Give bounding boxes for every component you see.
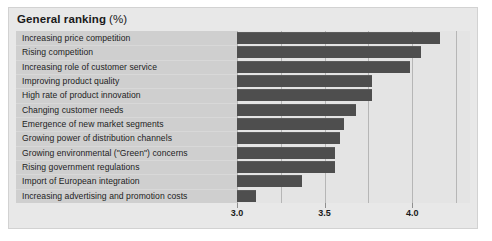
row-separator: [16, 45, 237, 46]
bar: [237, 132, 340, 144]
bar-row: [237, 88, 470, 102]
row-separator: [16, 117, 237, 118]
bar-row: [237, 117, 470, 131]
chart-title-unit: (%): [109, 13, 127, 25]
category-row: Increasing role of customer service: [16, 60, 237, 74]
x-axis: 3.03.54.0: [237, 203, 477, 225]
category-label: Increasing role of customer service: [22, 62, 157, 72]
row-separator: [16, 174, 237, 175]
chart-figure: General ranking(%) Increasing price comp…: [0, 0, 492, 241]
bar: [237, 75, 372, 87]
bar-row: [237, 45, 470, 59]
axis-tick-label: 4.0: [406, 208, 419, 218]
page-title: General ranking(%): [17, 13, 127, 25]
category-label: Changing customer needs: [22, 105, 123, 115]
row-separator: [16, 160, 237, 161]
category-row: Increasing price competition: [16, 31, 237, 45]
row-separator: [16, 103, 237, 104]
bar: [237, 46, 421, 58]
category-row: Increasing advertising and promotion cos…: [16, 189, 237, 203]
row-separator: [16, 74, 237, 75]
category-row: Rising competition: [16, 45, 237, 59]
category-row: Changing customer needs: [16, 103, 237, 117]
category-label-column: Increasing price competitionRising compe…: [16, 31, 237, 203]
bars-area: [237, 31, 470, 203]
bar-row: [237, 74, 470, 88]
category-row: High rate of product innovation: [16, 88, 237, 102]
category-label: High rate of product innovation: [22, 90, 141, 100]
category-label: Emergence of new market segments: [22, 119, 164, 129]
category-row: Growing environmental ("Green") concerns: [16, 146, 237, 160]
bar: [237, 161, 335, 173]
category-label: Growing power of distribution channels: [22, 133, 172, 143]
row-separator: [16, 88, 237, 89]
bar: [237, 118, 344, 130]
bar-row: [237, 160, 470, 174]
category-label: Rising government regulations: [22, 162, 140, 172]
category-row: Rising government regulations: [16, 160, 237, 174]
category-row: Growing power of distribution channels: [16, 131, 237, 145]
bar-row: [237, 31, 470, 45]
category-label: Growing environmental ("Green") concerns: [22, 148, 188, 158]
bar: [237, 61, 410, 73]
bar: [237, 190, 256, 202]
bar-row: [237, 146, 470, 160]
chart-title-main: General ranking: [17, 13, 106, 25]
row-separator: [16, 131, 237, 132]
category-row: Emergence of new market segments: [16, 117, 237, 131]
bar-row: [237, 189, 470, 203]
row-separator: [16, 146, 237, 147]
bar: [237, 175, 302, 187]
bar: [237, 32, 440, 44]
category-label: Improving product quality: [22, 76, 119, 86]
plot-area: Increasing price competitionRising compe…: [16, 31, 470, 203]
category-label: Increasing advertising and promotion cos…: [22, 191, 187, 201]
category-label: Rising competition: [22, 47, 93, 57]
bar-row: [237, 131, 470, 145]
row-separator: [16, 189, 237, 190]
bar-row: [237, 60, 470, 74]
bar-row: [237, 103, 470, 117]
category-label: Import of European integration: [22, 176, 140, 186]
category-row: Import of European integration: [16, 174, 237, 188]
row-separator: [16, 60, 237, 61]
bar: [237, 104, 356, 116]
axis-tick-label: 3.5: [318, 208, 331, 218]
category-label: Increasing price competition: [22, 33, 130, 43]
axis-tick-label: 3.0: [231, 208, 244, 218]
bar: [237, 89, 372, 101]
bar-row: [237, 174, 470, 188]
bar: [237, 147, 335, 159]
category-row: Improving product quality: [16, 74, 237, 88]
